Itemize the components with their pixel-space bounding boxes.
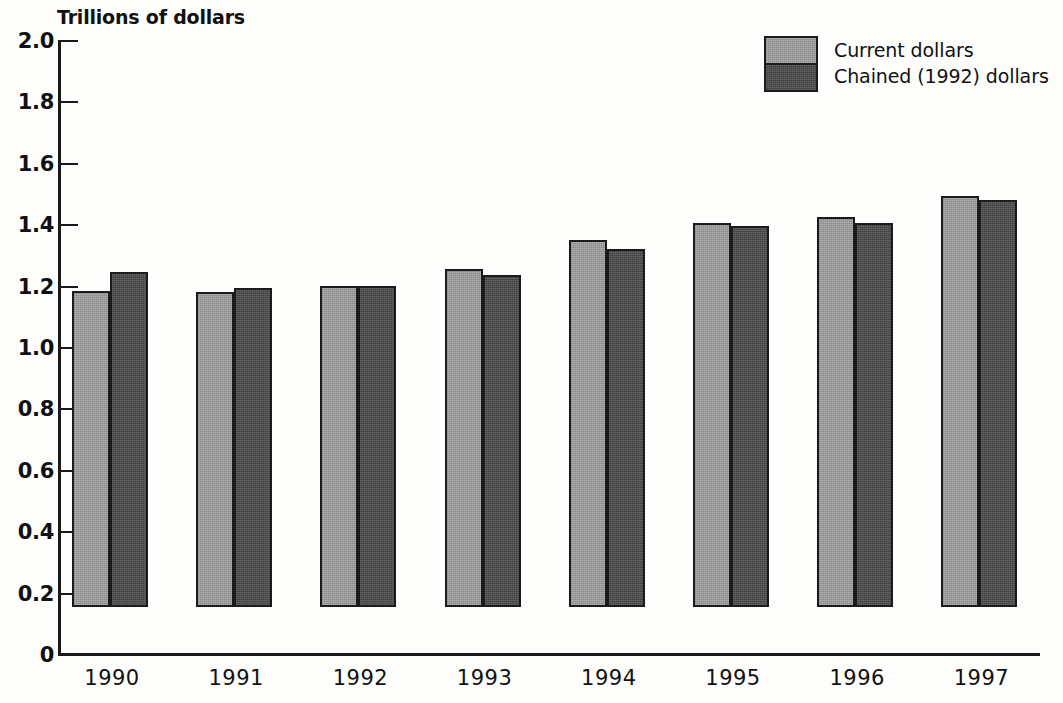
legend-swatch-current-dollars — [766, 38, 816, 65]
bars-layer — [0, 0, 1063, 655]
bar-1997-current-dollars — [941, 196, 979, 607]
bar-1994-chained-dollars — [607, 249, 645, 607]
legend-label-chained-dollars: Chained (1992) dollars — [834, 63, 1049, 89]
x-axis-tick-label-1997: 1997 — [911, 666, 1051, 690]
bar-1992-chained-dollars — [358, 286, 396, 607]
bar-1997-chained-dollars — [979, 200, 1017, 607]
chart-legend: Current dollars Chained (1992) dollars — [764, 36, 1049, 92]
bar-1995-chained-dollars — [731, 226, 769, 607]
legend-label-current-dollars: Current dollars — [834, 37, 1049, 63]
bar-1991-current-dollars — [196, 292, 234, 607]
bar-1990-chained-dollars — [110, 272, 148, 607]
bar-1995-current-dollars — [693, 223, 731, 607]
bar-1994-current-dollars — [569, 240, 607, 607]
bar-1990-current-dollars — [72, 291, 110, 607]
bar-1991-chained-dollars — [234, 288, 272, 607]
legend-label-stack: Current dollars Chained (1992) dollars — [834, 36, 1049, 89]
bar-1996-current-dollars — [817, 217, 855, 607]
x-axis-tick-label-1991: 1991 — [166, 666, 306, 690]
bar-chart-figure: Trillions of dollars 2.01.81.61.41.21.00… — [0, 0, 1063, 703]
bar-1993-current-dollars — [445, 269, 483, 607]
legend-swatch-stack — [764, 36, 818, 92]
x-axis-tick-label-1993: 1993 — [415, 666, 555, 690]
x-axis-tick-label-1996: 1996 — [787, 666, 927, 690]
legend-swatch-chained-dollars — [766, 65, 816, 90]
x-axis-tick-label-1994: 1994 — [539, 666, 679, 690]
bar-1992-current-dollars — [320, 286, 358, 607]
x-axis-tick-label-1990: 1990 — [42, 666, 182, 690]
x-axis-tick-label-1992: 1992 — [290, 666, 430, 690]
bar-1993-chained-dollars — [483, 275, 521, 607]
bar-1996-chained-dollars — [855, 223, 893, 607]
x-axis-tick-label-1995: 1995 — [663, 666, 803, 690]
